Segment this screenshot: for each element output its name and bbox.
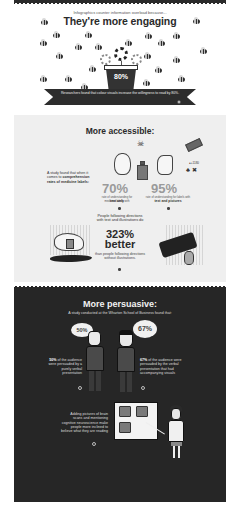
bee-icon <box>142 79 151 86</box>
stat-text-only-caption-bold: text only <box>96 199 138 203</box>
bee-icon <box>199 47 208 54</box>
bee-icon <box>172 56 181 63</box>
bee-icon <box>177 75 186 82</box>
bee-icon <box>124 39 133 46</box>
bee-icon <box>39 75 48 82</box>
tangled-cloth <box>50 255 92 262</box>
bee-icon <box>94 43 103 50</box>
bottle-cap <box>140 161 145 165</box>
section-subtitle-persuasive: A study conducted at the Wharton School … <box>14 311 226 315</box>
right-stat-desc: of the audience were persuaded by the ve… <box>140 358 182 375</box>
right-stat-text: 67% of the audience were persuaded by th… <box>140 358 190 375</box>
brain-scan-text: Adding pictures of brain scans and menti… <box>60 412 108 433</box>
person-figure <box>66 239 74 249</box>
ribbon-text: Researchers found that colour visuals in… <box>54 91 186 95</box>
footnote-icon <box>141 386 145 390</box>
left-stat-text: 50% of the audience were persuaded by a … <box>42 358 82 375</box>
section-title-persuasive: More persuasive: <box>14 299 226 309</box>
section-engaging: Infographics counter information overloa… <box>14 5 226 113</box>
sick-face-icon <box>114 153 131 175</box>
medicine-bottle-icon <box>137 165 148 180</box>
stat-text-pictures-caption-bold: text and pictures <box>144 199 192 203</box>
bee-icon <box>157 39 166 46</box>
bee-icon <box>88 65 97 72</box>
bee-icon <box>39 39 48 46</box>
pot-stat: 80% <box>106 73 136 80</box>
bullet-dot <box>167 207 170 210</box>
label-pictogram: ●+1180 <box>189 161 199 165</box>
bee-icon <box>74 43 83 50</box>
scientist-labcoat-icon <box>168 420 184 442</box>
bee-icon <box>80 83 89 90</box>
stat-text-only: 70% <box>102 181 128 196</box>
speech-bubble-67: 67% <box>133 320 157 338</box>
stat-text-pictures: 95% <box>151 181 177 196</box>
bullet-dot <box>118 207 121 210</box>
bee-icon <box>172 32 181 39</box>
flower-icon <box>114 47 128 61</box>
section-accessible: More accessible: A study found that when… <box>14 115 226 282</box>
scientist-legs <box>173 446 180 458</box>
flower-icon <box>100 54 111 65</box>
footnote-icon <box>78 386 82 390</box>
bee-icon <box>84 31 93 38</box>
skull-crossbones-icon: ☠ <box>137 139 144 148</box>
bee-icon <box>52 31 61 38</box>
study-intro-text: A study found that when it comes to comp… <box>47 171 91 184</box>
brain-scan-icon <box>119 422 131 433</box>
bee-icon <box>40 18 49 25</box>
bullet-dot <box>118 268 121 271</box>
bee-icon <box>144 32 153 39</box>
pictogram-icons: ♣ ✖ <box>186 166 197 173</box>
big-stat-word: better <box>84 239 156 250</box>
brain-scan-icon <box>136 406 148 417</box>
bee-icon <box>64 75 73 82</box>
bee-icon <box>55 52 64 59</box>
footnote-icon <box>177 100 181 104</box>
presentation-board <box>114 402 158 440</box>
trapped-person-icon <box>184 251 194 265</box>
flower-icon <box>131 54 142 65</box>
scientist-head <box>171 408 181 420</box>
dark-section-bottom-edge <box>14 500 226 505</box>
spray-bottle-icon <box>185 138 203 152</box>
bee-icon <box>143 52 152 59</box>
than-text: than people following directions without… <box>92 252 148 260</box>
footnote-icon <box>92 442 96 446</box>
follow-text: People following directions with text an… <box>94 214 146 223</box>
spray-face-icon <box>157 155 173 175</box>
section-persuasive: More persuasive: A study conducted at th… <box>14 287 226 502</box>
section-title-accessible: More accessible: <box>14 126 226 136</box>
brain-scan-icon <box>119 406 131 417</box>
bee-icon <box>192 17 201 24</box>
bee-icon <box>154 66 163 73</box>
